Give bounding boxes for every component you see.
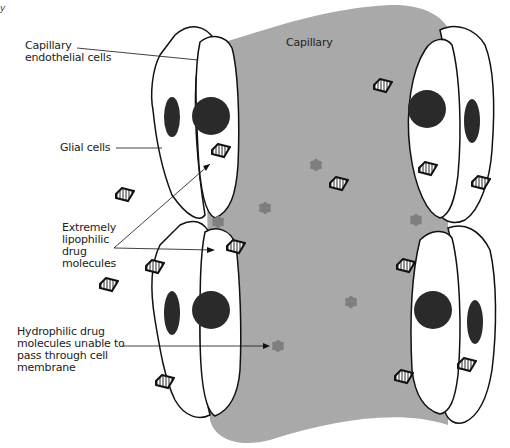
hydrophilic-label: Hydrophilic drug molecules unable to pas… (17, 326, 125, 374)
lipophilic-molecule-icon (472, 176, 490, 189)
glial-cells-label: Glial cells (60, 142, 110, 154)
lipophilic-label: Extremely lipophilic drug molecules (62, 222, 116, 270)
lipophilic-molecule-icon (100, 278, 118, 291)
endothelial-nucleus (192, 97, 230, 135)
capillary-label: Capillary (286, 37, 333, 49)
endothelial-nucleus (414, 291, 452, 329)
glial-nucleus (464, 99, 480, 143)
endothelial-nucleus (192, 291, 230, 329)
endothelial-cells-label: Capillary endothelial cells (25, 40, 111, 64)
glial-nucleus (164, 291, 180, 335)
glial-nucleus (164, 97, 180, 137)
corner-text: y (0, 3, 5, 13)
lipophilic-molecule-icon (116, 188, 134, 201)
glial-nucleus (467, 300, 483, 344)
endothelial-nucleus (408, 90, 446, 128)
